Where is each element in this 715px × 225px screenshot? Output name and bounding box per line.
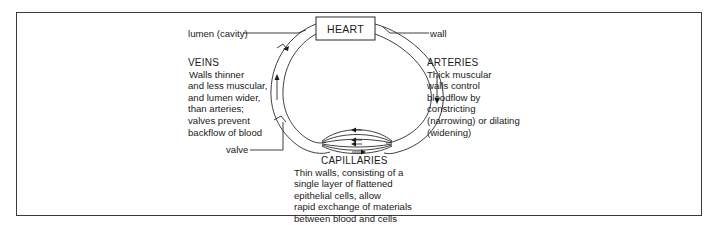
arteries-line: walls control <box>427 80 520 92</box>
veins-title: VEINS <box>188 57 267 69</box>
veins-line: than arteries; <box>188 103 267 115</box>
arteries-title: ARTERIES <box>427 57 520 69</box>
capillaries-line: Thin walls, consisting of a <box>294 167 444 179</box>
veins-line: backflow of blood <box>188 127 267 139</box>
vein-flow-arrow <box>275 74 280 80</box>
arteries-line: (widening) <box>427 127 520 139</box>
veins-line: valves prevent <box>188 115 267 127</box>
vein-inner-wall <box>283 34 326 143</box>
lumen-callout: lumen (cavity) <box>188 28 248 40</box>
veins-line: and less muscular, <box>188 80 267 92</box>
capillaries-line: single layer of flattened <box>294 178 444 190</box>
capillaries-description: CAPILLARIES Thin walls, consisting of a … <box>294 155 444 225</box>
heart-label: HEART <box>316 17 375 40</box>
veins-line: and lumen wider, <box>188 92 267 104</box>
valve-callout: valve <box>226 144 248 156</box>
arteries-line: bloodflow by <box>427 92 520 104</box>
veins-description: VEINS Walls thinner and less muscular, a… <box>188 57 267 138</box>
arteries-description: ARTERIES Thick muscular walls control bl… <box>427 57 520 138</box>
capillaries-title: CAPILLARIES <box>294 155 444 167</box>
arteries-line: (narrowing) or dilating <box>427 115 520 127</box>
arteries-line: constricting <box>427 103 520 115</box>
capillaries-line: epithelial cells, allow <box>294 190 444 202</box>
veins-line: Walls thinner <box>188 69 267 81</box>
capillaries-line: rapid exchange of materials <box>294 201 444 213</box>
capillary-strand <box>322 144 392 147</box>
wall-callout: wall <box>430 28 447 40</box>
capillaries-line: between blood and cells <box>294 213 444 225</box>
arteries-line: Thick muscular <box>427 69 520 81</box>
artery-inner-wall <box>375 34 431 143</box>
